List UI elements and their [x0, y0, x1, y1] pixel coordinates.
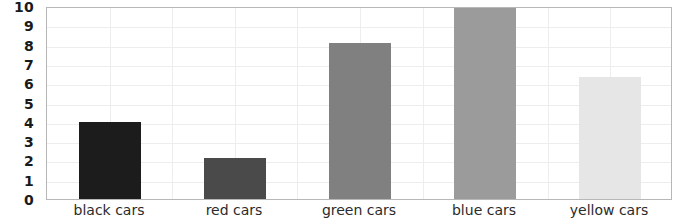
y-tick-label: 9	[24, 19, 34, 33]
bars-layer	[47, 8, 671, 199]
x-category-label: black cars	[74, 202, 145, 219]
bar-green-cars	[329, 43, 391, 199]
y-axis: 10 9 8 7 6 5 4 3 2 1 0	[0, 0, 46, 221]
bar-yellow-cars	[579, 77, 641, 199]
x-category-label: green cars	[322, 202, 396, 219]
y-tick-label: 10	[14, 0, 34, 14]
y-tick-label: 8	[24, 39, 34, 53]
plot-area	[46, 7, 672, 200]
y-tick-label: 1	[24, 174, 34, 188]
y-tick-label: 4	[24, 116, 34, 130]
x-category-label: blue cars	[452, 202, 516, 219]
x-category-label: yellow cars	[570, 202, 648, 219]
y-tick-label: 6	[24, 77, 34, 91]
y-tick-label: 0	[24, 193, 34, 207]
y-tick-label: 5	[24, 97, 34, 111]
y-tick-label: 2	[24, 154, 34, 168]
x-axis: black cars red cars green cars blue cars…	[46, 201, 672, 221]
bar-chart: 10 9 8 7 6 5 4 3 2 1 0 black cars red ca…	[0, 0, 678, 221]
bar-red-cars	[204, 158, 266, 199]
bar-black-cars	[79, 122, 141, 199]
y-tick-label: 7	[24, 58, 34, 72]
bar-blue-cars	[454, 7, 516, 199]
y-tick-label: 3	[24, 135, 34, 149]
x-category-label: red cars	[206, 202, 263, 219]
